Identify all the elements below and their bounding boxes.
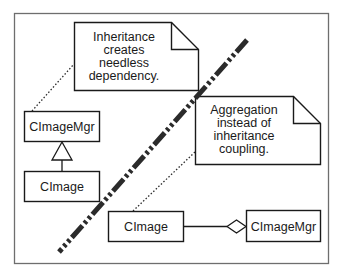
note-aggregation: Aggregation instead of inheritance coupl… (196, 97, 321, 165)
note-inheritance: Inheritance creates needless dependency. (75, 23, 199, 91)
note-text-line: Aggregation (210, 103, 277, 117)
note-text-line: Inheritance (93, 30, 155, 44)
aggregation-diamond-icon (227, 220, 246, 233)
class-name: CImageMgr (29, 120, 94, 134)
note-text-line: instead of (217, 116, 272, 130)
note-connector-inheritance (32, 64, 74, 111)
generalization-arrow-icon (52, 142, 72, 160)
inheritance-example: CImageMgr CImage (25, 112, 100, 202)
class-name: CImageMgr (251, 220, 316, 234)
class-name: CImage (124, 220, 168, 234)
note-text-line: inheritance (213, 129, 274, 143)
aggregation-example: CImage CImageMgr (109, 211, 321, 242)
diagram-canvas: Inheritance creates needless dependency.… (0, 0, 339, 277)
note-text-line: dependency. (89, 69, 160, 83)
note-text-line: needless (99, 56, 149, 70)
class-name: CImage (40, 180, 84, 194)
note-text-line: coupling. (219, 142, 269, 156)
note-text-line: creates (104, 43, 145, 57)
